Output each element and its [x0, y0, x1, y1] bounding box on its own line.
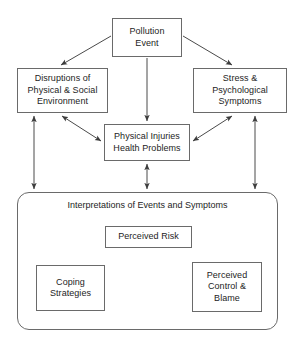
node-coping-label: Coping Strategies [48, 277, 93, 300]
diagram-canvas: Interpretations of Events and Symptoms P… [0, 0, 293, 347]
group-interpretations-label: Interpretations of Events and Symptoms [17, 200, 278, 211]
node-perceived-control-and-blame: Perceived Control & Blame [192, 262, 262, 312]
node-disruptions-of-physical-and-social-environment: Disruptions of Physical & Social Environ… [17, 68, 108, 113]
edge-pollution-to-disruptions [61, 36, 111, 65]
node-pollution-event: Pollution Event [112, 18, 182, 57]
node-disruptions-label: Disruptions of Physical & Social Environ… [26, 73, 100, 108]
edge-pollution-to-stress [183, 36, 232, 65]
node-stress-label: Stress & Psychological Symptoms [210, 73, 270, 108]
edge-stress-to-physical [193, 116, 232, 141]
node-pollution-event-label: Pollution Event [128, 26, 167, 49]
node-physical-label: Physical Injuries Health Problems [111, 131, 182, 154]
node-coping-strategies: Coping Strategies [36, 265, 105, 311]
edge-disruptions-to-physical [62, 116, 101, 141]
node-perceived-risk: Perceived Risk [105, 226, 192, 248]
node-stress-and-psychological-symptoms: Stress & Psychological Symptoms [193, 68, 287, 113]
node-perceived-risk-label: Perceived Risk [116, 231, 181, 243]
node-control-blame-label: Perceived Control & Blame [205, 270, 249, 305]
node-physical-injuries-health-problems: Physical Injuries Health Problems [104, 124, 190, 161]
